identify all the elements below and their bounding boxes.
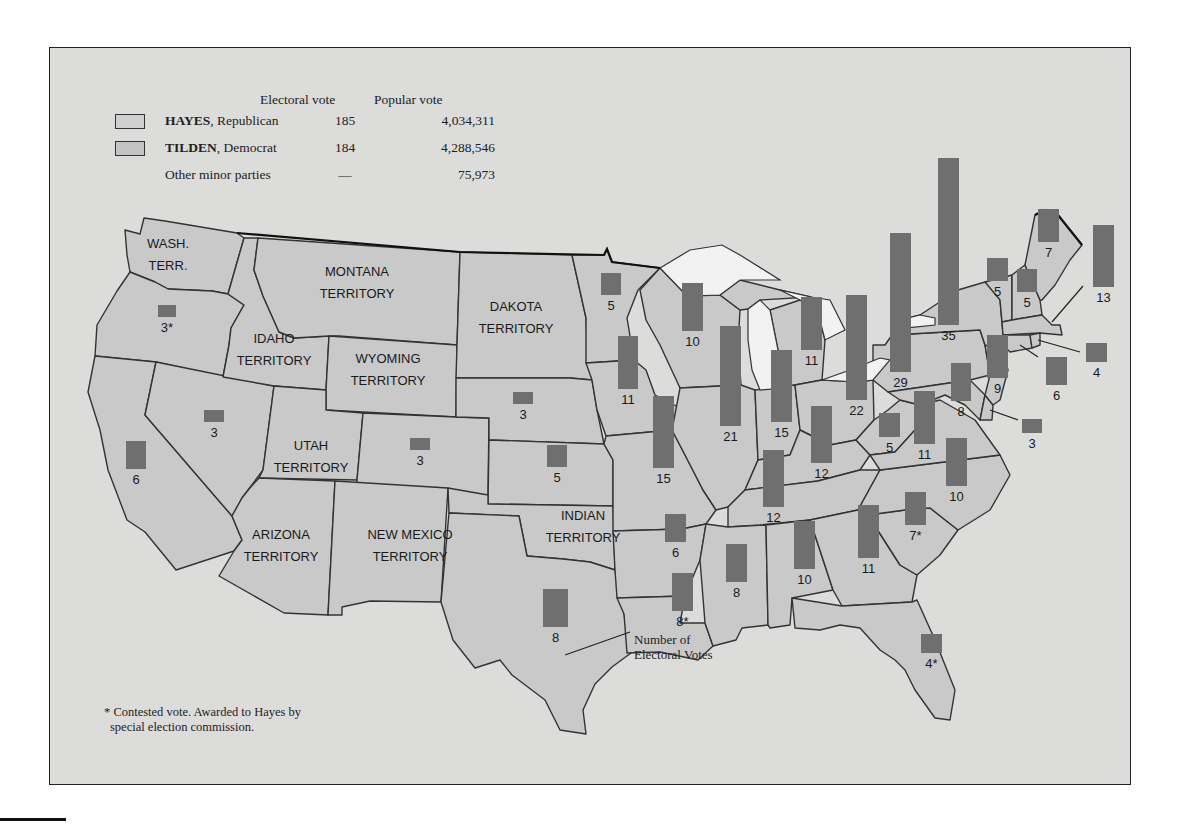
svg-text:10: 10 <box>797 572 811 587</box>
svg-text:12: 12 <box>814 466 828 481</box>
svg-text:8: 8 <box>957 404 964 419</box>
svg-text:13: 13 <box>1096 290 1110 305</box>
svg-text:5: 5 <box>994 284 1001 299</box>
svg-text:10: 10 <box>685 334 699 349</box>
svg-text:7*: 7* <box>909 528 921 543</box>
territory-label: TERRITORY <box>244 549 319 564</box>
svg-text:5: 5 <box>886 440 893 455</box>
svg-text:4*: 4* <box>925 656 937 671</box>
callout-electoral-votes: Number of Electoral Votes <box>634 632 713 662</box>
territory-label: INDIAN <box>561 508 605 523</box>
legend-electoral: 185 <box>330 113 360 129</box>
territory-label: DAKOTA <box>490 299 543 314</box>
leader-line-ri <box>1038 340 1080 352</box>
legend-name: Other minor parties <box>165 167 271 183</box>
territory-label: TERR. <box>149 258 188 273</box>
svg-text:15: 15 <box>656 471 670 486</box>
legend-popular: 4,034,311 <box>405 113 495 129</box>
svg-text:21: 21 <box>723 429 737 444</box>
state-bar-massachusetts: 13 <box>1093 225 1114 305</box>
territory-label: TERRITORY <box>373 549 448 564</box>
territory-label: TERRITORY <box>237 353 312 368</box>
territory-label: UTAH <box>294 438 328 453</box>
svg-text:10: 10 <box>949 489 963 504</box>
svg-text:6: 6 <box>1053 388 1060 403</box>
footnote-line: * Contested vote. Awarded to Hayes by <box>104 705 301 720</box>
state-bar-delaware: 3 <box>1022 419 1042 451</box>
legend-electoral: 184 <box>330 140 360 156</box>
territory-label: TERRITORY <box>351 373 426 388</box>
territory-label: NEW MEXICO <box>367 527 452 542</box>
state-dakota <box>456 252 592 380</box>
hayes-swatch <box>115 114 145 129</box>
svg-text:35: 35 <box>941 328 955 343</box>
svg-text:9: 9 <box>994 381 1001 396</box>
svg-text:22: 22 <box>849 403 863 418</box>
legend-popular: 4,288,546 <box>405 140 495 156</box>
territory-label: MONTANA <box>325 264 389 279</box>
svg-text:8*: 8* <box>676 614 688 629</box>
state-bar-new-york: 35 <box>938 158 959 343</box>
svg-text:7: 7 <box>1045 245 1052 260</box>
leader-line-ma <box>1052 286 1083 322</box>
svg-text:4: 4 <box>1093 365 1100 380</box>
svg-text:15: 15 <box>774 425 788 440</box>
state-bar-ohio: 22 <box>846 295 867 418</box>
svg-text:29: 29 <box>893 375 907 390</box>
legend-header-popular: Popular vote <box>374 92 443 108</box>
svg-text:12: 12 <box>766 510 780 525</box>
state-bar-rhode-island: 4 <box>1086 343 1107 380</box>
callout-line: Number of <box>634 632 713 647</box>
legend-name: TILDEN, Democrat <box>165 140 277 156</box>
svg-text:11: 11 <box>862 561 876 576</box>
state-new-mexico <box>328 481 448 615</box>
territory-label: TERRITORY <box>546 530 621 545</box>
territory-label: TERRITORY <box>479 321 554 336</box>
legend-electoral: — <box>330 167 360 183</box>
territory-label: ARIZONA <box>252 527 310 542</box>
territory-label: TERRITORY <box>320 286 395 301</box>
territory-label: WYOMING <box>356 351 421 366</box>
svg-text:6: 6 <box>672 545 679 560</box>
legend-header-electoral: Electoral vote <box>260 92 335 108</box>
territory-label: TERRITORY <box>274 460 349 475</box>
svg-text:11: 11 <box>805 353 819 368</box>
svg-text:11: 11 <box>918 447 932 462</box>
svg-text:5: 5 <box>553 470 560 485</box>
state-bar-connecticut: 6 <box>1046 357 1067 403</box>
leader-line-de <box>990 410 1018 420</box>
page-rule <box>0 818 66 821</box>
callout-line: Electoral Votes <box>634 647 713 662</box>
svg-text:8: 8 <box>552 630 559 645</box>
svg-text:6: 6 <box>132 472 139 487</box>
svg-text:5: 5 <box>607 298 614 313</box>
tilden-swatch <box>115 141 145 156</box>
svg-text:3: 3 <box>416 453 423 468</box>
legend-name: HAYES, Republican <box>165 113 279 129</box>
state-bar-pennsylvania: 29 <box>890 233 911 390</box>
svg-text:5: 5 <box>1023 295 1030 310</box>
legend-popular: 75,973 <box>405 167 495 183</box>
svg-text:11: 11 <box>621 392 635 407</box>
svg-text:8: 8 <box>733 585 740 600</box>
svg-text:3: 3 <box>1028 436 1035 451</box>
svg-text:3: 3 <box>519 407 526 422</box>
territory-label: WASH. <box>147 236 189 251</box>
footnote: * Contested vote. Awarded to Hayes by sp… <box>104 705 301 735</box>
svg-text:3*: 3* <box>161 320 173 335</box>
territory-label: IDAHO <box>253 331 294 346</box>
svg-text:3: 3 <box>210 425 217 440</box>
footnote-line: special election commission. <box>104 720 301 735</box>
